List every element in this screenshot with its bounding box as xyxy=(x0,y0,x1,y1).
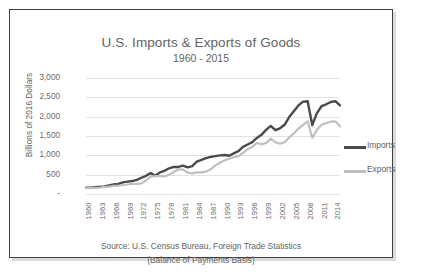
series-line-imports xyxy=(86,101,340,188)
y-tick-label: 1,000 xyxy=(20,150,60,159)
x-tick-label: 1990 xyxy=(222,203,231,243)
legend-swatch-exports xyxy=(344,170,366,173)
x-tick-label: 1996 xyxy=(250,203,259,243)
x-tick-label: 2008 xyxy=(305,203,314,243)
x-tick-label: 1984 xyxy=(194,203,203,243)
y-tick-label: 1,500 xyxy=(20,131,60,140)
y-tick-label: - xyxy=(20,189,60,198)
x-tick-label: 1987 xyxy=(208,203,217,243)
x-tick-label: 1969 xyxy=(125,203,134,243)
x-tick-label: 2002 xyxy=(277,203,286,243)
x-tick-label: 2011 xyxy=(319,203,328,243)
x-tick-label: 1960 xyxy=(84,203,93,243)
x-tick-label: 1972 xyxy=(139,203,148,243)
x-tick-label: 1978 xyxy=(167,203,176,243)
x-tick-label: 1993 xyxy=(236,203,245,243)
y-tick-label: 500 xyxy=(20,170,60,179)
chart-subtitle: 1960 - 2015 xyxy=(10,52,392,64)
x-tick-label: 2014 xyxy=(333,203,342,243)
legend-label-imports: Imports xyxy=(367,140,395,150)
source-line-1: Source: U.S. Census Bureau, Foreign Trad… xyxy=(10,241,392,251)
legend-swatch-imports xyxy=(344,146,366,149)
y-tick-label: 2,000 xyxy=(20,112,60,121)
x-tick-label: 1981 xyxy=(180,203,189,243)
x-tick-label: 1963 xyxy=(97,203,106,243)
plot-area xyxy=(86,78,340,194)
x-tick-label: 1966 xyxy=(111,203,120,243)
chart-frame: U.S. Imports & Exports of Goods 1960 - 2… xyxy=(9,9,393,258)
source-line-2: (Balance of Payments Basis) xyxy=(10,255,392,265)
chart-title: U.S. Imports & Exports of Goods xyxy=(10,35,392,50)
x-tick-label: 1999 xyxy=(264,203,273,243)
legend-label-exports: Exports xyxy=(367,164,395,174)
series-lines xyxy=(86,78,340,194)
y-tick-label: 3,000 xyxy=(20,73,60,82)
x-tick-label: 2005 xyxy=(291,203,300,243)
grid-line xyxy=(86,194,340,195)
series-line-exports xyxy=(86,121,340,188)
x-tick-label: 1975 xyxy=(153,203,162,243)
y-tick-label: 2,500 xyxy=(20,92,60,101)
